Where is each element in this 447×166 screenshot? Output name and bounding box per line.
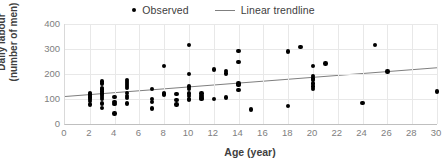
data-point	[385, 69, 389, 73]
trendline-segment	[65, 68, 437, 97]
data-point	[212, 67, 216, 71]
gridline-vertical	[115, 24, 116, 124]
x-tick-label: 30	[424, 128, 447, 138]
gridline-vertical	[164, 24, 165, 124]
y-tick-label: 100	[30, 94, 60, 104]
data-point	[112, 95, 116, 99]
x-tick-label: 12	[201, 128, 225, 138]
gridline-vertical	[437, 24, 438, 124]
data-point	[236, 60, 240, 64]
data-point	[125, 96, 129, 100]
dot-marker-icon	[132, 8, 136, 12]
data-point	[236, 49, 240, 53]
x-tick-label: 18	[275, 128, 299, 138]
x-axis-tick-labels: 024681012141618202224262830	[64, 128, 436, 140]
data-point	[150, 106, 154, 110]
data-point	[125, 101, 129, 105]
plot-area	[64, 24, 437, 125]
legend-label-trendline: Linear trendline	[241, 4, 315, 16]
data-point	[435, 89, 439, 93]
data-point	[323, 61, 327, 65]
y-axis-tick-labels: 0100200300400	[28, 24, 60, 124]
legend-item-observed: Observed	[132, 4, 188, 16]
data-point	[112, 111, 116, 115]
x-tick-label: 22	[325, 128, 349, 138]
x-tick-label: 6	[126, 128, 150, 138]
gridline-horizontal	[65, 24, 437, 25]
y-axis-title: Daily labour (number of men)	[0, 0, 24, 96]
data-point	[249, 107, 253, 111]
y-tick-label: 300	[30, 44, 60, 54]
gridline-vertical	[288, 24, 289, 124]
data-point	[174, 102, 178, 106]
gridline-horizontal	[65, 99, 437, 100]
data-point	[199, 97, 203, 101]
y-axis-title-line2: (number of men)	[8, 3, 20, 82]
data-point	[125, 86, 129, 90]
data-point	[298, 45, 302, 49]
gridline-vertical	[387, 24, 388, 124]
x-tick-label: 20	[300, 128, 324, 138]
x-tick-label: 28	[399, 128, 423, 138]
y-tick-label: 200	[30, 69, 60, 79]
gridline-vertical	[214, 24, 215, 124]
gridline-vertical	[363, 24, 364, 124]
x-tick-label: 10	[176, 128, 200, 138]
legend-label-observed: Observed	[142, 4, 188, 16]
x-tick-label: 16	[250, 128, 274, 138]
gridline-vertical	[239, 24, 240, 124]
legend-item-trendline: Linear trendline	[215, 4, 315, 16]
gridline-vertical	[338, 24, 339, 124]
chart-legend: Observed Linear trendline	[0, 2, 447, 18]
x-axis-title: Age (year)	[64, 146, 436, 158]
gridline-horizontal	[65, 74, 437, 75]
x-tick-label: 14	[226, 128, 250, 138]
x-tick-label: 8	[151, 128, 175, 138]
gridline-horizontal	[65, 49, 437, 50]
data-point	[360, 101, 364, 105]
data-point	[174, 92, 178, 96]
scatter-chart: Observed Linear trendline Daily labour (…	[0, 0, 447, 166]
x-tick-label: 26	[374, 128, 398, 138]
data-point	[88, 102, 92, 106]
gridline-vertical	[90, 24, 91, 124]
y-tick-label: 400	[30, 19, 60, 29]
gridline-vertical	[263, 24, 264, 124]
x-tick-label: 2	[77, 128, 101, 138]
gridline-vertical	[139, 24, 140, 124]
x-tick-label: 4	[102, 128, 126, 138]
x-tick-label: 24	[350, 128, 374, 138]
y-axis-title-line1: Daily labour	[0, 13, 8, 70]
data-point	[112, 102, 116, 106]
gridline-vertical	[412, 24, 413, 124]
line-marker-icon	[215, 10, 235, 11]
x-tick-label: 0	[52, 128, 76, 138]
